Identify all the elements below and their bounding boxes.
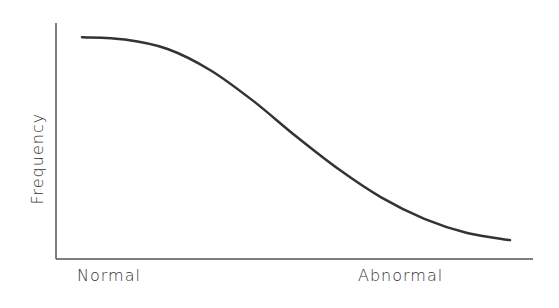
y-axis-label: Frequency xyxy=(28,115,47,205)
x-tick-abnormal: Abnormal xyxy=(358,266,443,285)
frequency-curve xyxy=(82,37,510,240)
chart-canvas xyxy=(0,0,559,308)
x-tick-normal: Normal xyxy=(77,266,141,285)
